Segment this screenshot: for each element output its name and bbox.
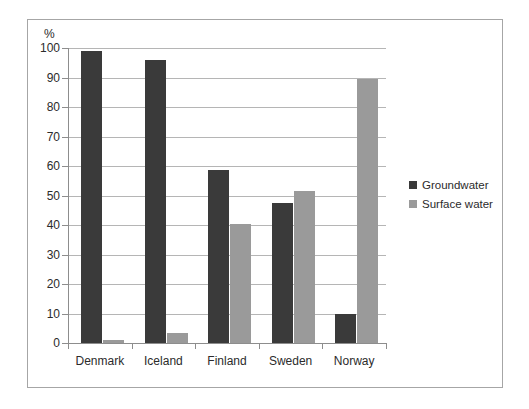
- x-category-label-finland: Finland: [195, 354, 259, 368]
- y-tick-label-70: 70: [32, 130, 60, 144]
- bar-group: [68, 48, 132, 343]
- bar-group: [132, 48, 196, 343]
- y-tick-mark-80: [62, 107, 68, 108]
- bar-group: [259, 48, 323, 343]
- legend-label: Groundwater: [422, 179, 488, 191]
- y-tick-label-50: 50: [32, 189, 60, 203]
- bar-series-container: [68, 48, 386, 343]
- y-tick-label-90: 90: [32, 71, 60, 85]
- y-tick-label-60: 60: [32, 159, 60, 173]
- y-tick-mark-20: [62, 284, 68, 285]
- legend-label: Surface water: [422, 198, 493, 210]
- y-tick-mark-40: [62, 225, 68, 226]
- y-tick-label-40: 40: [32, 218, 60, 232]
- x-axis-line: [68, 343, 386, 344]
- y-tick-mark-100: [62, 48, 68, 49]
- y-tick-label-100: 100: [32, 41, 60, 55]
- bar-norway-surface-water: [357, 79, 378, 343]
- x-tick-mark-1: [132, 343, 133, 349]
- x-tick-mark-2: [195, 343, 196, 349]
- y-tick-mark-30: [62, 255, 68, 256]
- x-tick-mark-4: [322, 343, 323, 349]
- bar-iceland-groundwater: [145, 60, 166, 343]
- bar-denmark-groundwater: [81, 51, 102, 343]
- chart-figure: % 0102030405060708090100 DenmarkIcelandF…: [0, 0, 529, 409]
- x-axis-category-labels: DenmarkIcelandFinlandSwedenNorway: [68, 354, 386, 374]
- x-category-label-sweden: Sweden: [259, 354, 323, 368]
- x-tick-mark-5: [386, 343, 387, 349]
- bar-group: [195, 48, 259, 343]
- legend-swatch-icon: [409, 200, 417, 208]
- y-tick-mark-90: [62, 78, 68, 79]
- bar-group: [322, 48, 386, 343]
- y-tick-mark-50: [62, 196, 68, 197]
- y-tick-label-0: 0: [32, 336, 60, 350]
- bar-norway-groundwater: [335, 314, 356, 344]
- y-tick-mark-10: [62, 314, 68, 315]
- y-tick-mark-60: [62, 166, 68, 167]
- bar-finland-groundwater: [208, 170, 229, 343]
- bar-iceland-surface-water: [167, 333, 188, 343]
- x-category-label-iceland: Iceland: [131, 354, 195, 368]
- chart-legend: GroundwaterSurface water: [409, 175, 501, 213]
- y-tick-label-20: 20: [32, 277, 60, 291]
- bar-sweden-surface-water: [294, 191, 315, 343]
- legend-swatch-icon: [409, 181, 417, 189]
- x-category-label-denmark: Denmark: [68, 354, 132, 368]
- y-tick-label-10: 10: [32, 307, 60, 321]
- y-tick-mark-70: [62, 137, 68, 138]
- legend-item-surface-water[interactable]: Surface water: [409, 194, 501, 213]
- bar-denmark-surface-water: [103, 340, 124, 343]
- y-axis-tick-labels: 0102030405060708090100: [28, 48, 60, 343]
- x-tick-mark-3: [259, 343, 260, 349]
- bar-sweden-groundwater: [272, 203, 293, 343]
- y-axis-unit-label: %: [44, 27, 55, 41]
- x-tick-mark-0: [68, 343, 69, 349]
- bar-finland-surface-water: [230, 224, 251, 343]
- legend-item-groundwater[interactable]: Groundwater: [409, 175, 501, 194]
- y-tick-label-80: 80: [32, 100, 60, 114]
- y-tick-label-30: 30: [32, 248, 60, 262]
- x-category-label-norway: Norway: [322, 354, 386, 368]
